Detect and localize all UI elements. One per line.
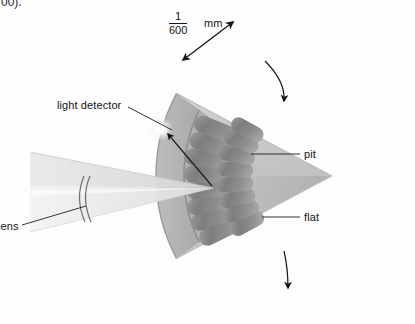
track-pitch-unit-label: mm (204, 17, 223, 29)
figure-canvas: 00). 1 600 mm light detector pit flat le… (0, 0, 415, 324)
track-pitch-numerator: 1 (169, 11, 187, 22)
track-pitch-denominator: 600 (169, 24, 187, 36)
track-pitch-fraction: 1 600 (169, 11, 187, 36)
light-detector-label: light detector (57, 99, 121, 111)
rotation-arrow-bottom (284, 251, 288, 288)
disc-sector (156, 93, 332, 258)
flat-label: flat (304, 211, 319, 223)
caption-fragment: 00). (1, 0, 22, 8)
cd-pickup-diagram (0, 0, 415, 324)
detector-spot (158, 126, 165, 133)
lens-label: lens (0, 220, 19, 232)
pit (216, 175, 254, 193)
rotation-arrow-top (265, 61, 284, 101)
pit-label: pit (304, 148, 316, 160)
